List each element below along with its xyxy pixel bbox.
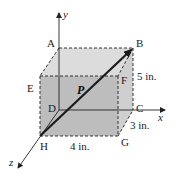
depth-dimension-label: 3 in. [130,119,150,131]
vertex-b-label: B [136,37,143,49]
vertex-d-label: D [48,102,56,114]
vertex-a-label: A [47,37,55,49]
vertex-h-label: H [40,140,48,152]
z-axis-label: z [8,156,14,168]
vertex-e-label: E [27,82,34,94]
z-axis [18,110,59,168]
x-axis-label: x [157,111,163,123]
y-axis-label: y [62,8,68,20]
vertex-f-label: F [121,74,127,86]
width-dimension-label: 4 in. [70,140,90,152]
vertex-c-label: C [136,102,143,114]
vector-p-label: P [77,83,85,97]
vertex-g-label: G [121,136,129,148]
height-dimension-label: 5 in. [137,70,157,82]
box-vector-diagram: y x z A B C D E F G H P 5 in. 3 in. 4 in… [0,0,177,183]
